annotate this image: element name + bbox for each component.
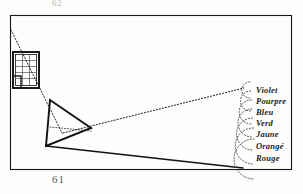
figure-plate: 62 61 VioletPourpreBleuVerdJauneOrangéRo… <box>0 0 303 194</box>
refracted-red-ray <box>46 146 243 168</box>
spectrum-label-violet: Violet <box>256 85 278 95</box>
spectrum-arc-pourpre <box>241 91 251 111</box>
spectrum-arc-rouge <box>234 139 254 179</box>
window-inner-frame <box>16 55 37 86</box>
spectrum-arc-orangé <box>235 128 253 164</box>
refracted-violet-ray <box>63 88 244 133</box>
spectrum-label-jaune: Jaune <box>256 129 279 139</box>
spectrum-label-verd: Verd <box>256 118 273 128</box>
spectrum-arc-verd <box>238 109 252 137</box>
spectrum-arc-violet <box>242 82 250 98</box>
spectrum-label-rouge: Rouge <box>256 153 280 163</box>
spectrum-label-orangé: Orangé <box>256 141 284 151</box>
spectrum-label-bleu: Bleu <box>256 107 273 117</box>
page-number-bottom: 61 <box>52 173 65 185</box>
spectrum-label-pourpre: Pourpre <box>256 96 286 106</box>
window-aperture <box>13 52 39 88</box>
page-number-top: 62 <box>52 0 62 8</box>
spectrum-color-arcs <box>234 82 254 179</box>
spectrum-arc-jaune <box>237 118 253 150</box>
glass-prism <box>46 100 91 146</box>
